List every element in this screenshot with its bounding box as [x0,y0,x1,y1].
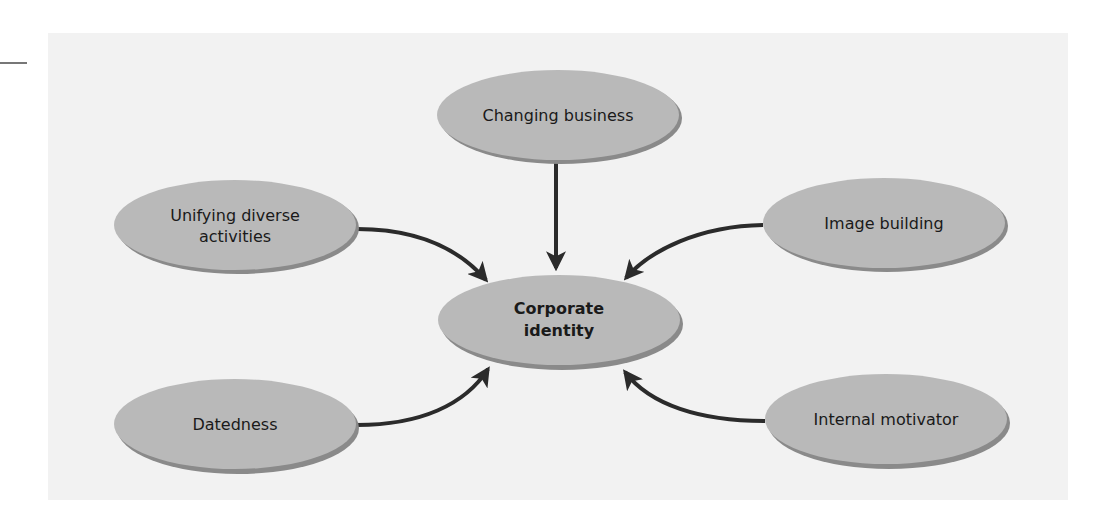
node-unifying-diverse-activities: Unifying diverse activities [114,205,356,247]
arrow-internal-motivator [625,372,765,421]
node-label: Image building [824,213,943,234]
arrow-image-building [626,225,763,278]
node-label: Internal motivator [814,409,959,430]
node-internal-motivator: Internal motivator [765,399,1007,439]
node-label-line2: activities [199,226,271,247]
arrow-unifying-diverse-activities [357,229,486,280]
node-image-building: Image building [763,203,1005,243]
center-label-line2: identity [524,320,594,342]
node-label-line1: Unifying diverse [170,205,300,226]
node-changing-business: Changing business [437,95,679,135]
node-corporate-identity: Corporate identity [438,297,680,343]
center-label-line1: Corporate [514,298,604,320]
node-datedness: Datedness [114,404,356,444]
arrow-datedness [357,369,488,425]
node-label: Datedness [192,414,277,435]
node-label: Changing business [483,105,634,126]
